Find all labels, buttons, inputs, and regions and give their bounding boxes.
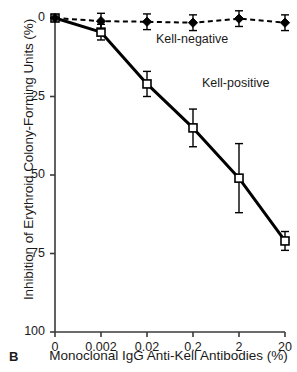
x-axis-title: Monoclonal IgG Anti-Kell Antibodies (%) xyxy=(40,348,297,363)
series-label-kell-negative: Kell-negative xyxy=(156,32,228,46)
y-tick-label: 50 xyxy=(11,167,45,181)
marker-filled-diamond xyxy=(142,17,151,26)
marker-filled-diamond xyxy=(234,14,243,23)
y-tick-label: 75 xyxy=(11,246,45,260)
chart-canvas xyxy=(0,0,297,372)
y-tick-label: 100 xyxy=(11,324,45,338)
figure-panel-b: Inhibition of Erythroid Colony-Forming U… xyxy=(0,0,297,372)
panel-label: B xyxy=(9,349,18,364)
marker-open-square xyxy=(281,237,289,245)
y-tick-label: 0 xyxy=(11,10,45,24)
marker-open-square xyxy=(189,124,197,132)
series-label-kell-positive: Kell-positive xyxy=(202,76,269,90)
marker-filled-diamond xyxy=(280,18,289,27)
series-group xyxy=(50,11,289,251)
axes-group xyxy=(50,18,285,337)
y-tick-label: 25 xyxy=(11,89,45,103)
series-line xyxy=(55,18,285,23)
marker-filled-diamond xyxy=(188,18,197,27)
series-line xyxy=(55,18,285,241)
marker-open-square xyxy=(235,174,243,182)
series-kell-positive xyxy=(51,14,289,250)
marker-open-square xyxy=(143,80,151,88)
